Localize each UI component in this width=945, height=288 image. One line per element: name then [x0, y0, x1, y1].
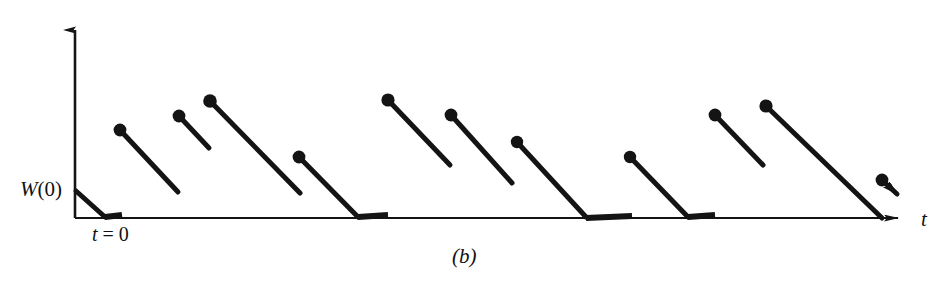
- arrival-dot: [624, 151, 636, 163]
- idle-segment: [358, 215, 388, 217]
- arrival-dot: [445, 109, 458, 122]
- idle-segment: [586, 216, 632, 218]
- arrival-dot: [173, 110, 186, 123]
- initial-workload-decay: [76, 191, 105, 217]
- decay-segment: [715, 115, 763, 165]
- x-axis-origin-label: t = 0: [92, 224, 129, 244]
- decay-segment: [120, 130, 178, 192]
- decay-segment: [210, 101, 300, 193]
- t0-equals-zero: = 0: [98, 223, 129, 245]
- workload-decay-segments: [76, 100, 882, 218]
- panel-caption: (b): [452, 246, 477, 267]
- arrival-dot: [709, 109, 722, 122]
- arrival-dot: [876, 174, 889, 187]
- decay-segment: [517, 142, 586, 217]
- decay-segment: [388, 100, 450, 165]
- w0-symbol: W: [20, 177, 38, 201]
- decay-segment: [179, 116, 209, 148]
- arrival-dot: [759, 99, 772, 112]
- w0-argument: (0): [38, 177, 63, 201]
- y-axis-label-w0: W(0): [20, 179, 62, 200]
- decay-segment: [299, 157, 358, 217]
- decay-segment: [766, 106, 882, 218]
- arrival-dot: [381, 93, 394, 106]
- decay-segment: [451, 115, 512, 183]
- decay-segment: [630, 157, 688, 217]
- arrival-dot: [203, 94, 217, 108]
- idle-segment: [105, 215, 122, 217]
- axes-group: [75, 30, 898, 218]
- idle-segment: [688, 215, 715, 217]
- arrival-dot: [293, 151, 306, 164]
- arrival-dot: [511, 136, 523, 148]
- x-axis-label-t: t: [921, 209, 927, 230]
- figure-container: W(0) t = 0 t (b): [0, 0, 945, 288]
- arrival-dot: [114, 124, 127, 137]
